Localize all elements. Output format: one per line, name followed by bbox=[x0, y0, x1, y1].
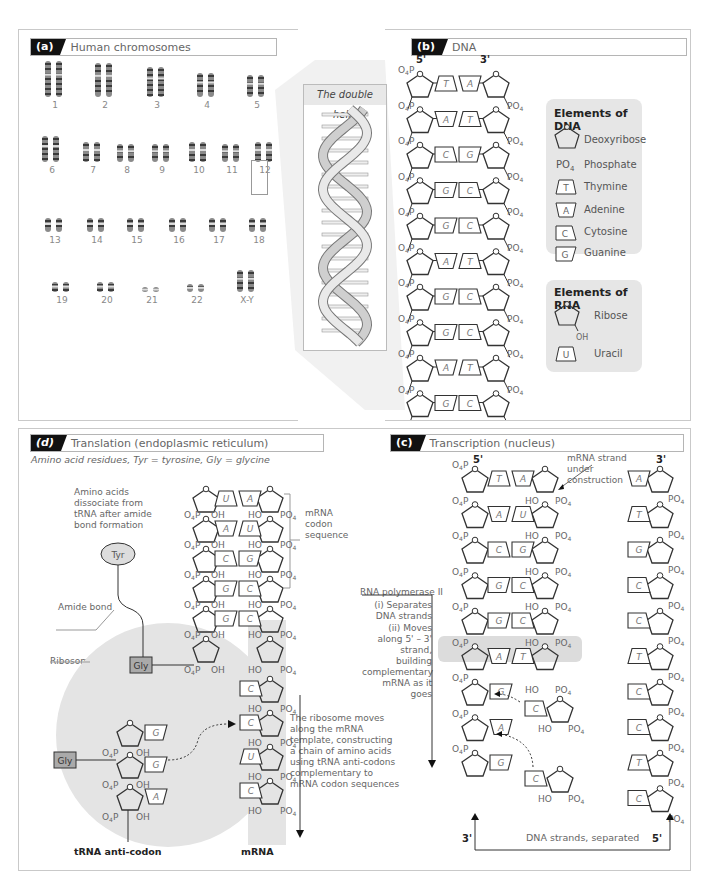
svg-text:PO4: PO4 bbox=[555, 531, 572, 542]
chromosome-pair-13 bbox=[42, 216, 68, 234]
base-c: C bbox=[628, 791, 650, 806]
svg-text:O4P: O4P bbox=[452, 567, 469, 578]
phosphate-symbol: PO4 bbox=[556, 159, 574, 173]
base-c: C bbox=[525, 701, 547, 716]
base-c: C bbox=[459, 325, 481, 340]
legend-adenine: Adenine bbox=[584, 204, 625, 215]
svg-text:G: G bbox=[223, 584, 230, 594]
svg-text:OH: OH bbox=[211, 570, 225, 580]
chromosome-pair-14 bbox=[84, 216, 110, 234]
base-c: C bbox=[240, 681, 262, 696]
chromosome-label-7: 7 bbox=[80, 165, 106, 175]
svg-text:O4P: O4P bbox=[398, 207, 415, 218]
sugar-ring-icon bbox=[647, 679, 673, 705]
svg-text:PO4: PO4 bbox=[568, 724, 585, 735]
svg-text:PO4: PO4 bbox=[668, 743, 685, 754]
ribose-icon: OH bbox=[552, 300, 592, 340]
svg-text:HO: HO bbox=[525, 496, 539, 506]
svg-text:PO4: PO4 bbox=[507, 207, 524, 218]
base-c: C bbox=[459, 183, 481, 198]
svg-text:PO4: PO4 bbox=[668, 778, 685, 789]
sugar-ring-icon bbox=[193, 516, 219, 542]
chromosome-label-19: 19 bbox=[49, 295, 75, 305]
svg-text:O4P: O4P bbox=[452, 531, 469, 542]
svg-text:5': 5' bbox=[416, 55, 426, 65]
double-helix-figure: The double helix bbox=[303, 84, 387, 351]
svg-text:A: A bbox=[563, 206, 570, 216]
dna-base-pair-row: ATO4PPO4 bbox=[398, 101, 524, 145]
svg-text:A: A bbox=[466, 79, 473, 89]
base-t: T bbox=[459, 112, 481, 127]
dna-base-pair-row: GCO4PPO4PO4 bbox=[398, 385, 524, 421]
deoxyribose-icon bbox=[407, 355, 433, 381]
svg-text:PO4: PO4 bbox=[280, 738, 297, 749]
chromosome-pair-5 bbox=[244, 73, 270, 99]
adenine-icon: A bbox=[554, 202, 578, 218]
svg-text:HO: HO bbox=[248, 630, 262, 640]
svg-text:PO4: PO4 bbox=[280, 630, 297, 641]
base-g: G bbox=[145, 757, 167, 772]
chromosome-label-10: 10 bbox=[186, 165, 212, 175]
chromosome-12-highlight bbox=[251, 160, 268, 195]
svg-text:G: G bbox=[496, 616, 503, 626]
chromosome-label-13: 13 bbox=[42, 235, 68, 245]
deoxyribose-icon bbox=[483, 284, 509, 310]
svg-text:HO: HO bbox=[248, 510, 262, 520]
svg-text:OH: OH bbox=[576, 333, 588, 340]
svg-text:PO4: PO4 bbox=[568, 794, 585, 805]
svg-text:PO4: PO4 bbox=[507, 243, 524, 254]
base-a: A bbox=[459, 76, 481, 91]
svg-text:5': 5' bbox=[473, 454, 483, 465]
base-t: T bbox=[512, 649, 534, 664]
dna-base-pair-row: GCO4PPO4 bbox=[398, 314, 524, 358]
base-a: A bbox=[488, 507, 510, 522]
base-c: C bbox=[459, 289, 481, 304]
uracil-icon: U bbox=[554, 346, 578, 362]
translation-diagram: UAAUO4POHHOPO4CGO4POHHOPO4GCO4POHHOPO4GC… bbox=[18, 470, 360, 850]
base-g: G bbox=[488, 613, 510, 628]
legend-thymine: Thymine bbox=[584, 181, 627, 192]
svg-text:A: A bbox=[152, 792, 159, 802]
svg-text:O4P: O4P bbox=[398, 278, 415, 289]
svg-text:A: A bbox=[495, 652, 502, 662]
svg-text:PO4: PO4 bbox=[280, 600, 297, 611]
chromosome-pair-17 bbox=[206, 216, 232, 234]
svg-text:A: A bbox=[495, 510, 502, 520]
deoxyribose-icon bbox=[407, 284, 433, 310]
svg-text:G: G bbox=[443, 221, 450, 231]
svg-text:OH: OH bbox=[211, 540, 225, 550]
transcription-pair-row: AUO4PHOPO4 bbox=[452, 496, 572, 528]
svg-text:U: U bbox=[223, 494, 230, 504]
base-t: T bbox=[628, 649, 650, 664]
svg-text:Gly: Gly bbox=[134, 661, 149, 671]
svg-text:PO4: PO4 bbox=[668, 494, 685, 505]
svg-text:O4P: O4P bbox=[398, 65, 415, 76]
svg-text:PO4: PO4 bbox=[280, 510, 297, 521]
svg-text:HO: HO bbox=[248, 600, 262, 610]
base-g: G bbox=[490, 755, 512, 770]
sugar-ring-icon bbox=[647, 644, 673, 670]
chromosome-pair-4 bbox=[194, 71, 220, 99]
dna-base-pair-row: GCO4PPO4 bbox=[398, 278, 524, 322]
sugar-ring-icon bbox=[647, 608, 673, 634]
chromosome-pair-2 bbox=[92, 61, 118, 99]
base-g: G bbox=[239, 551, 261, 566]
sugar-ring-icon bbox=[257, 486, 283, 512]
base-c: C bbox=[525, 771, 547, 786]
svg-text:OH: OH bbox=[211, 600, 225, 610]
svg-text:PO4: PO4 bbox=[555, 496, 572, 507]
svg-text:C: C bbox=[467, 186, 474, 196]
svg-text:G: G bbox=[223, 614, 230, 624]
sugar-ring-icon bbox=[532, 502, 558, 528]
base-u: U bbox=[239, 521, 261, 536]
chromosome-label-22: 22 bbox=[184, 295, 210, 305]
svg-text:C: C bbox=[223, 554, 230, 564]
svg-text:PO4: PO4 bbox=[280, 772, 297, 783]
svg-text:C: C bbox=[247, 584, 254, 594]
legend-rna: Elements of RNA OH Ribose U Uracil bbox=[546, 280, 642, 372]
deoxyribose-icon bbox=[483, 320, 509, 346]
sugar-ring-icon bbox=[647, 502, 673, 528]
base-t: T bbox=[435, 76, 457, 91]
svg-text:PO4: PO4 bbox=[280, 540, 297, 551]
base-c: C bbox=[628, 720, 650, 735]
